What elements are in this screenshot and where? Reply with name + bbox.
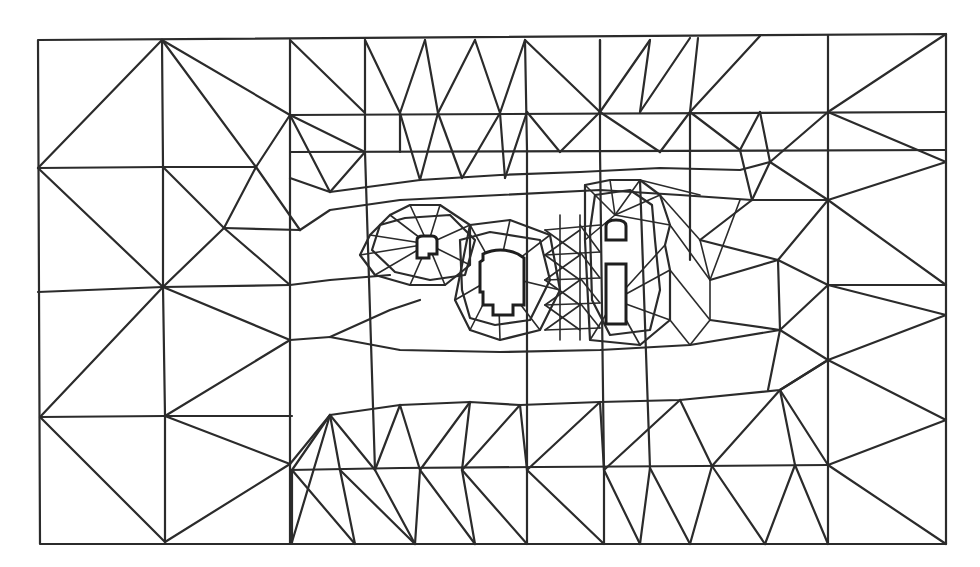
refined-mesh-around-openings [360,180,740,345]
small-left-opening [417,236,437,258]
right-lower-opening [606,264,626,324]
triangular-mesh-diagram [0,0,980,567]
right-upper-opening [606,220,626,240]
central-opening [480,250,524,315]
